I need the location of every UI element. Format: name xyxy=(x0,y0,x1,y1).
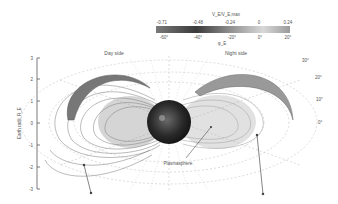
colorbar-bottom-tick: -60° xyxy=(160,35,169,40)
colorbar-bottom-tick: 0° xyxy=(258,35,263,40)
colorbar-top-tick: -0.71 xyxy=(157,20,168,25)
colorbar-bottom-tick: -20° xyxy=(228,35,237,40)
colorbar-bottom-tick: -40° xyxy=(194,35,203,40)
y-tick: -2 xyxy=(29,165,33,170)
latitude-label: 10° xyxy=(316,97,323,102)
y-axis-title: Earth radii, R_E xyxy=(17,107,22,139)
colorbar-top-title: V_E/V_E,max xyxy=(212,12,241,17)
y-tick: -3 xyxy=(29,187,33,192)
colorbar-top-tick: 0.24 xyxy=(284,20,293,25)
y-tick: -1 xyxy=(29,143,33,148)
colorbar-bottom-tick: 20° xyxy=(285,35,292,40)
latitude-label: 0° xyxy=(318,120,323,125)
colorbar-top-tick: -0.24 xyxy=(225,20,236,25)
colorbar-bottom-title: φ_E xyxy=(218,41,226,46)
latitude-label: 20° xyxy=(315,75,322,80)
latitude-label: 30° xyxy=(302,58,309,63)
y-tick: 2 xyxy=(30,77,33,82)
plasmasphere-label: Plasmasphere xyxy=(164,161,193,166)
earth xyxy=(147,100,191,144)
colorbar: V_E/V_E,max -0.71 -0.48 -0.24 0 0.24 -60… xyxy=(156,12,293,46)
y-tick: 0 xyxy=(30,121,33,126)
night-side-belt xyxy=(180,95,256,149)
y-tick: 3 xyxy=(30,56,33,61)
day-side-label: Day side xyxy=(104,50,124,56)
colorbar-top-tick: 0 xyxy=(258,20,261,25)
y-axis: 3 2 1 0 -1 -2 -3 Earth radii, R_E xyxy=(17,56,40,192)
earth-landmass xyxy=(159,115,165,121)
colorbar-top-tick: -0.48 xyxy=(193,20,204,25)
night-side-label: Night side xyxy=(225,50,247,56)
colorbar-gradient xyxy=(156,26,290,33)
magnetosphere-figure: V_E/V_E,max -0.71 -0.48 -0.24 0 0.24 -60… xyxy=(0,0,338,204)
